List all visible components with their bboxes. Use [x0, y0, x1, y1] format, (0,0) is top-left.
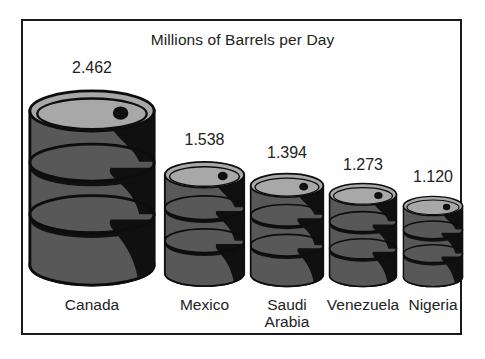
barrel-saudi-arabia [249, 172, 325, 288]
chart-root: Millions of Barrels per Day [0, 0, 485, 359]
barrel-glyph [402, 195, 464, 288]
barrel-glyph [249, 172, 325, 288]
category-label-saudi-arabia: Saudi Arabia [265, 296, 310, 331]
chart-title: Millions of Barrels per Day [0, 31, 485, 49]
barrel-venezuela [328, 182, 398, 288]
category-label-venezuela: Venezuela [327, 296, 399, 313]
barrel-glyph [328, 182, 398, 288]
category-label-mexico: Mexico [180, 296, 229, 313]
category-label-canada: Canada [65, 296, 119, 313]
value-label-canada: 2.462 [72, 59, 112, 77]
value-label-saudi-arabia: 1.394 [267, 144, 307, 162]
barrel-mexico [163, 160, 246, 288]
value-label-venezuela: 1.273 [343, 156, 383, 174]
value-label-mexico: 1.538 [184, 131, 224, 149]
barrel-glyph [27, 88, 157, 288]
barrel-canada [27, 88, 157, 288]
category-label-nigeria: Nigeria [408, 296, 457, 313]
barrel-nigeria [402, 195, 464, 288]
value-label-nigeria: 1.120 [413, 168, 453, 186]
barrel-glyph [163, 160, 246, 288]
